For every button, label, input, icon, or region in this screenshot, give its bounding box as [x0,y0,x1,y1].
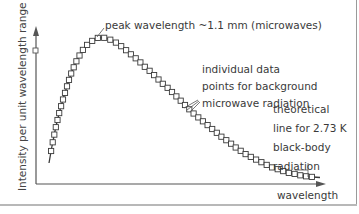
data-point-marker [102,35,107,40]
theory-line-2: line for 2.73 K [273,119,347,138]
theory-line-1: theoretical [273,100,347,119]
theory-line-4: radiation [273,157,347,176]
data-point-marker [219,134,224,139]
data-point-marker [113,40,118,45]
data-point-marker [53,125,58,130]
data-point-marker [50,140,55,145]
data-point-marker [108,37,113,42]
data-point-marker [64,84,69,89]
data-points-line-1: individual data [202,61,317,78]
data-point-marker [80,47,85,52]
data-point-marker [60,97,65,102]
data-point-marker [74,59,79,64]
chart-frame: Intensity per unit wavelength range peak… [0,0,359,214]
data-point-marker [119,44,124,49]
data-point-marker [66,77,71,82]
peak-annotation: peak wavelength ~1.1 mm (microwaves) [105,17,322,34]
data-point-marker [259,160,264,165]
data-point-marker [238,148,243,153]
data-point-marker [254,157,259,162]
data-point-marker [90,38,95,43]
data-point-marker [52,132,57,137]
axis-marker [33,48,38,53]
data-point-marker [55,117,60,122]
data-point-marker [233,145,238,150]
y-axis-label: Intensity per unit wavelength range [16,21,28,191]
y-axis-arrow-icon [33,26,39,36]
data-point-marker [243,152,248,157]
data-point-marker [57,111,62,116]
data-point-marker [49,148,54,153]
data-point-marker [248,154,253,159]
x-axis-label: wavelength [277,187,338,204]
data-point-marker [85,42,90,47]
data-point-marker [69,71,74,76]
data-point-marker [264,162,269,167]
theory-line-3: black-body [273,138,347,157]
data-point-marker [71,65,76,70]
data-point-marker [59,104,64,109]
theory-annotation: theoretical line for 2.73 K black-body r… [273,100,347,176]
data-point-marker [77,53,82,58]
data-points-line-2: points for background [202,78,317,95]
data-point-marker [62,90,67,95]
